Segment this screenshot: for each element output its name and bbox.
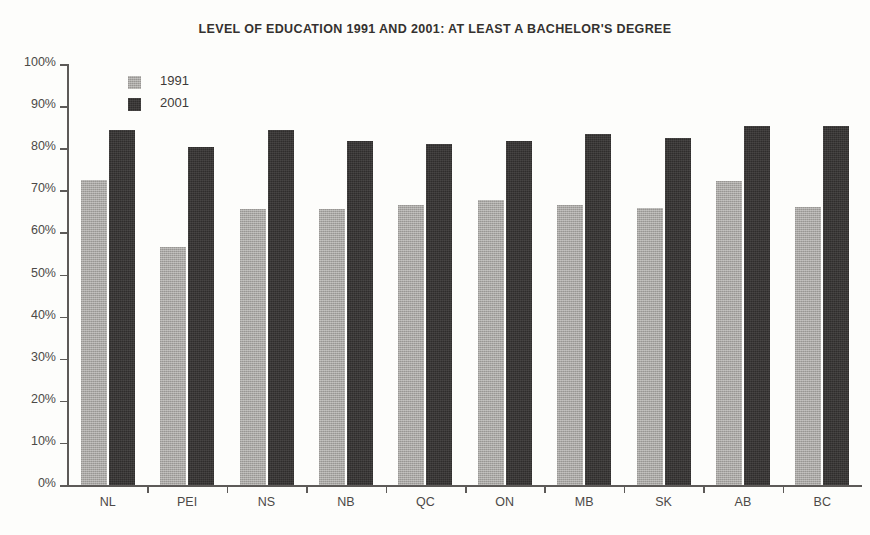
bar-group [795, 64, 849, 485]
bar-group [478, 64, 532, 485]
x-separator-tick [147, 486, 149, 493]
bar-bc-2001 [823, 126, 849, 485]
bar-on-2001 [506, 141, 532, 485]
bar-group [81, 64, 135, 485]
y-tick-label: 20% [31, 392, 56, 406]
y-tick-mark [60, 359, 68, 361]
y-tick-mark [60, 190, 68, 192]
legend-item-1991: 1991 [128, 72, 248, 94]
x-separator-tick [227, 486, 229, 493]
bar-ns-1991 [240, 209, 266, 485]
x-tick-label-nb: NB [316, 495, 376, 509]
y-tick-label: 70% [31, 181, 56, 195]
legend-label-2001: 2001 [160, 95, 189, 110]
bar-pei-1991 [160, 247, 186, 485]
y-tick-mark [60, 106, 68, 108]
x-tick-label-mb: MB [554, 495, 614, 509]
bar-ab-1991 [716, 181, 742, 485]
y-tick-label: 60% [31, 223, 56, 237]
bar-nl-2001 [109, 130, 135, 485]
x-separator-tick [386, 486, 388, 493]
bar-group [240, 64, 294, 485]
x-separator-tick [783, 486, 785, 493]
y-tick-mark [60, 317, 68, 319]
bar-qc-2001 [426, 144, 452, 485]
y-tick-mark [60, 275, 68, 277]
y-tick-label: 10% [31, 434, 56, 448]
bar-bc-1991 [795, 207, 821, 485]
x-tick-label-bc: BC [792, 495, 852, 509]
bar-group [398, 64, 452, 485]
y-tick-mark [60, 232, 68, 234]
bar-on-1991 [478, 200, 504, 485]
x-tick-label-on: ON [475, 495, 535, 509]
y-tick-label: 80% [31, 139, 56, 153]
x-tick-label-ns: NS [237, 495, 297, 509]
chart-title: LEVEL OF EDUCATION 1991 AND 2001: AT LEA… [0, 22, 870, 36]
y-tick-mark [60, 443, 68, 445]
y-tick-label: 30% [31, 350, 56, 364]
x-separator-tick [624, 486, 626, 493]
bar-group [319, 64, 373, 485]
legend-item-2001: 2001 [128, 94, 248, 116]
bar-pei-2001 [188, 147, 214, 485]
y-tick-mark [60, 401, 68, 403]
x-tick-label-pei: PEI [157, 495, 217, 509]
chart-legend: 19912001 [128, 72, 248, 116]
chart-figure: LEVEL OF EDUCATION 1991 AND 2001: AT LEA… [0, 0, 870, 535]
bar-group [160, 64, 214, 485]
y-tick-label: 100% [24, 55, 56, 69]
bar-mb-1991 [557, 205, 583, 485]
legend-swatch-2001 [128, 98, 141, 111]
bar-group [716, 64, 770, 485]
bar-nb-1991 [319, 209, 345, 485]
y-tick-mark [60, 485, 68, 487]
bar-nb-2001 [347, 141, 373, 485]
x-separator-tick [465, 486, 467, 493]
bar-group [637, 64, 691, 485]
y-tick-label: 0% [38, 476, 56, 490]
x-tick-label-ab: AB [713, 495, 773, 509]
x-separator-tick [703, 486, 705, 493]
y-tick-mark [60, 148, 68, 150]
y-tick-label: 40% [31, 308, 56, 322]
y-tick-label: 90% [31, 97, 56, 111]
bar-group [557, 64, 611, 485]
bar-mb-2001 [585, 134, 611, 485]
bar-nl-1991 [81, 180, 107, 485]
bar-ns-2001 [268, 130, 294, 485]
x-tick-label-nl: NL [78, 495, 138, 509]
y-tick-mark [60, 64, 68, 66]
x-separator-tick [306, 486, 308, 493]
y-tick-label: 50% [31, 266, 56, 280]
legend-label-1991: 1991 [160, 73, 189, 88]
x-tick-label-sk: SK [634, 495, 694, 509]
x-separator-tick [544, 486, 546, 493]
bar-ab-2001 [744, 126, 770, 485]
bar-sk-2001 [665, 138, 691, 485]
bar-qc-1991 [398, 205, 424, 485]
legend-swatch-1991 [128, 76, 141, 89]
x-tick-label-qc: QC [395, 495, 455, 509]
bar-sk-1991 [637, 208, 663, 485]
